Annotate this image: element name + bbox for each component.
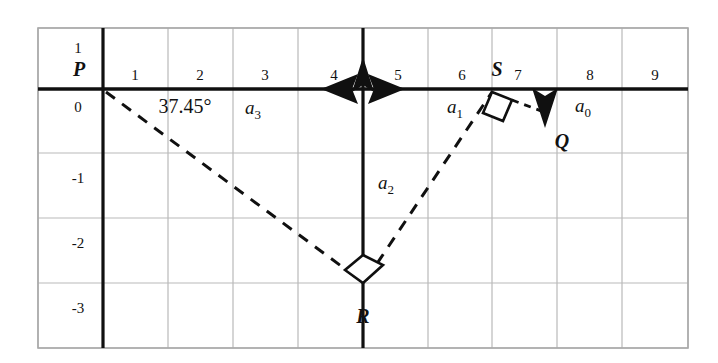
vector-a0-subscript: 0	[585, 105, 592, 120]
y-tick-1: 1	[74, 40, 82, 56]
vector-diagram-figure: 1 0 -1 -2 -3 1 2 3 4 5 6 7 8 9	[0, 0, 718, 363]
vector-a2-subscript: 2	[388, 182, 395, 197]
x-tick-6: 6	[458, 67, 466, 83]
vector-a1-subscript: 1	[457, 106, 464, 121]
y-tick-minus2: -2	[72, 235, 85, 251]
angle-label-37-45: 37.45°	[159, 95, 212, 117]
x-tick-8: 8	[586, 67, 594, 83]
vector-a1-base: a	[447, 96, 457, 117]
x-tick-1: 1	[131, 67, 139, 83]
point-label-R: R	[355, 305, 369, 327]
y-tick-0: 0	[74, 99, 82, 115]
vector-a3-base: a	[245, 97, 255, 118]
x-tick-7: 7	[514, 67, 522, 83]
point-label-S: S	[491, 58, 502, 80]
x-tick-9: 9	[651, 67, 659, 83]
vector-a2-base: a	[378, 172, 388, 193]
x-tick-4: 4	[330, 67, 338, 83]
x-tick-2: 2	[196, 67, 204, 83]
x-tick-5: 5	[394, 67, 402, 83]
point-label-Q: Q	[555, 130, 569, 152]
vector-a0-base: a	[575, 95, 585, 116]
y-tick-minus1: -1	[72, 170, 85, 186]
x-tick-3: 3	[261, 67, 269, 83]
vector-a3-subscript: 3	[255, 107, 262, 122]
point-label-P: P	[72, 58, 86, 80]
diagram-canvas: 1 0 -1 -2 -3 1 2 3 4 5 6 7 8 9	[0, 0, 718, 363]
y-tick-minus3: -3	[72, 300, 85, 316]
